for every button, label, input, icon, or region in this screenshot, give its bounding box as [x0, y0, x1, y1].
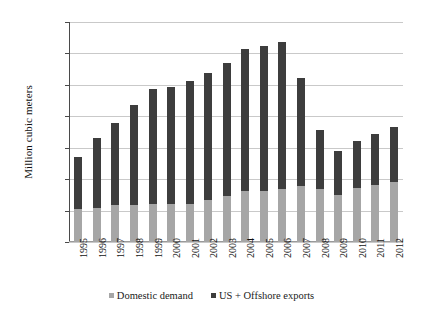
bar-segment-us-offshore-exports — [260, 46, 268, 191]
bar-segment-us-offshore-exports — [111, 123, 119, 206]
bar-stack — [334, 151, 342, 242]
bar-stack — [390, 127, 398, 243]
bar-stack — [316, 130, 324, 242]
bar-segment-domestic-demand — [186, 204, 194, 242]
x-axis-tick-cell: 2000 — [162, 246, 181, 282]
bar-segment-domestic-demand — [260, 191, 268, 242]
bar-segment-domestic-demand — [241, 191, 249, 242]
bar-segment-us-offshore-exports — [130, 105, 138, 206]
bar-stack — [186, 81, 194, 242]
bar-stack — [371, 134, 379, 242]
bar-column — [255, 22, 274, 242]
x-axis-tick-cell: 1998 — [125, 246, 144, 282]
y-axis-tick-mark — [65, 242, 69, 243]
x-axis-tick-cell: 2004 — [236, 246, 255, 282]
bar-segment-domestic-demand — [223, 196, 231, 242]
bar-segment-domestic-demand — [149, 204, 157, 242]
bar-stack — [223, 63, 231, 242]
x-axis-tick-cell: 1999 — [143, 246, 162, 282]
bar-segment-domestic-demand — [371, 185, 379, 242]
bar-column — [88, 22, 107, 242]
bar-segment-domestic-demand — [316, 189, 324, 242]
bar-column — [143, 22, 162, 242]
bar-column — [347, 22, 366, 242]
bar-segment-us-offshore-exports — [186, 81, 194, 204]
bar-stack — [74, 157, 82, 242]
bar-segment-us-offshore-exports — [297, 78, 305, 186]
x-axis-tick-cell: 2009 — [329, 246, 348, 282]
bar-segment-us-offshore-exports — [241, 49, 249, 191]
bar-column — [273, 22, 292, 242]
x-axis-tick-cell: 2008 — [310, 246, 329, 282]
x-axis-tick-cell: 2010 — [347, 246, 366, 282]
bar-segment-domestic-demand — [93, 208, 101, 242]
x-axis-tick-label: 2012 — [394, 238, 405, 258]
x-axis-tick-cell: 2001 — [180, 246, 199, 282]
x-axis-tick-cell: 2005 — [255, 246, 274, 282]
bar-segment-domestic-demand — [278, 189, 286, 242]
legend-swatch-exports-icon — [211, 293, 216, 298]
bar-segment-domestic-demand — [204, 200, 212, 242]
bar-column — [366, 22, 385, 242]
bar-segment-us-offshore-exports — [316, 130, 324, 189]
bar-segment-domestic-demand — [130, 205, 138, 242]
bar-segment-us-offshore-exports — [167, 87, 175, 204]
x-axis-tick-cell: 1995 — [69, 246, 88, 282]
legend-label-domestic-demand: Domestic demand — [117, 290, 193, 301]
bar-stack — [93, 138, 101, 242]
x-axis-tick-cell: 2011 — [366, 246, 385, 282]
bar-stack — [278, 42, 286, 242]
x-axis-tick-cell: 2007 — [292, 246, 311, 282]
bar-segment-domestic-demand — [334, 195, 342, 242]
bar-stack — [111, 123, 119, 242]
bar-column — [236, 22, 255, 242]
bar-column — [180, 22, 199, 242]
bar-segment-us-offshore-exports — [204, 73, 212, 200]
legend-label-us-offshore-exports: US + Offshore exports — [219, 290, 314, 301]
bar-series-group — [69, 22, 403, 242]
plot-area: 14.0012.0010.008.006.004.002.000.00 — [69, 22, 403, 242]
legend-swatch-domestic-icon — [109, 293, 114, 298]
bar-stack — [204, 73, 212, 242]
x-axis-tick-labels: 1995199619971998199920002001200220032004… — [69, 246, 403, 282]
bar-segment-us-offshore-exports — [93, 138, 101, 208]
x-axis-tick-cell: 2012 — [385, 246, 404, 282]
bar-column — [292, 22, 311, 242]
x-axis-tick-cell: 1997 — [106, 246, 125, 282]
bar-stack — [260, 46, 268, 242]
bar-segment-us-offshore-exports — [223, 63, 231, 196]
bar-column — [69, 22, 88, 242]
bar-chart: Million cubic meters 14.0012.0010.008.00… — [0, 0, 423, 321]
y-axis-title: Million cubic meters — [22, 42, 34, 222]
x-axis-tick-cell: 2006 — [273, 246, 292, 282]
bar-segment-us-offshore-exports — [334, 151, 342, 195]
bar-column — [162, 22, 181, 242]
bar-stack — [130, 105, 138, 242]
x-axis-tick-cell: 2003 — [218, 246, 237, 282]
bar-column — [329, 22, 348, 242]
bar-segment-us-offshore-exports — [353, 141, 361, 187]
legend-item-domestic-demand: Domestic demand — [109, 290, 193, 301]
bar-stack — [167, 87, 175, 242]
bar-segment-domestic-demand — [390, 182, 398, 243]
bar-segment-us-offshore-exports — [278, 42, 286, 189]
bar-segment-domestic-demand — [111, 205, 119, 242]
bar-segment-domestic-demand — [297, 186, 305, 242]
x-axis-tick-cell: 1996 — [88, 246, 107, 282]
bar-segment-domestic-demand — [167, 204, 175, 242]
bar-stack — [353, 141, 361, 242]
bar-segment-us-offshore-exports — [149, 89, 157, 205]
bar-stack — [297, 78, 305, 242]
legend-item-us-offshore-exports: US + Offshore exports — [211, 290, 314, 301]
bar-segment-domestic-demand — [353, 188, 361, 242]
bar-column — [199, 22, 218, 242]
bar-segment-us-offshore-exports — [371, 134, 379, 185]
bar-stack — [149, 89, 157, 242]
bar-column — [310, 22, 329, 242]
bar-segment-us-offshore-exports — [74, 157, 82, 209]
x-axis-tick-cell: 2002 — [199, 246, 218, 282]
chart-legend: Domestic demand US + Offshore exports — [0, 290, 423, 301]
bar-segment-us-offshore-exports — [390, 127, 398, 182]
bar-column — [106, 22, 125, 242]
bar-column — [218, 22, 237, 242]
